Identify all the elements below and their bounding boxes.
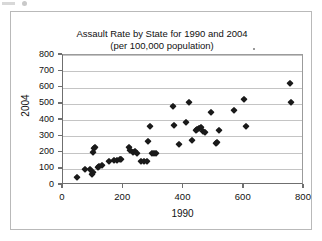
data-point — [176, 141, 182, 147]
data-point — [202, 129, 208, 135]
scan-artifact-dot — [22, 1, 27, 6]
y-axis-tick-mark — [58, 53, 62, 55]
y-axis-tick-label: 500 — [20, 98, 54, 107]
y-axis-tick-label: 0 — [20, 180, 54, 189]
y-axis-tick-mark — [58, 151, 62, 153]
x-axis-tick-mark — [122, 184, 124, 188]
x-axis-tick-label: 600 — [223, 192, 263, 202]
data-point — [216, 127, 222, 133]
gridline — [63, 136, 302, 137]
data-point — [243, 123, 249, 129]
x-axis-tick-mark — [242, 184, 244, 188]
chart-figure: Assault Rate by State for 1990 and 2004 … — [10, 11, 312, 230]
y-axis-tick-label: 100 — [20, 163, 54, 172]
x-axis-tick-mark — [302, 184, 304, 188]
x-axis-tick-label: 0 — [42, 192, 82, 202]
data-point — [208, 109, 214, 115]
chart-title: Assault Rate by State for 1990 and 2004 — [11, 28, 313, 40]
data-point — [147, 123, 153, 129]
gridline — [63, 153, 302, 154]
x-axis-tick-mark — [182, 184, 184, 188]
data-point — [171, 121, 177, 127]
plot-area — [62, 54, 303, 184]
y-axis-tick-mark — [58, 167, 62, 169]
y-axis-tick-label: 200 — [20, 147, 54, 156]
y-axis-tick-mark — [58, 86, 62, 88]
scan-artifact-bar — [2, 2, 15, 5]
x-axis-tick-label: 200 — [102, 192, 142, 202]
data-point — [153, 150, 159, 156]
gridline — [63, 88, 302, 89]
data-point — [231, 107, 237, 113]
gridline — [63, 104, 302, 105]
y-axis-tick-label: 300 — [20, 131, 54, 140]
data-point — [118, 155, 124, 161]
y-axis-tick-label: 400 — [20, 115, 54, 124]
y-axis-tick-label: 800 — [20, 50, 54, 59]
x-axis-tick-label: 400 — [163, 192, 203, 202]
y-axis-tick-label: 700 — [20, 66, 54, 75]
data-point — [145, 138, 151, 144]
x-axis-tick-mark — [61, 184, 63, 188]
y-axis-tick-mark — [58, 118, 62, 120]
x-axis-title: 1990 — [62, 208, 303, 219]
y-axis-tick-mark — [58, 70, 62, 72]
y-axis-tick-label: 600 — [20, 82, 54, 91]
gridline — [63, 71, 302, 72]
data-point — [241, 96, 247, 102]
x-axis-tick-label: 800 — [283, 192, 322, 202]
gridline — [63, 55, 302, 56]
data-point — [134, 150, 140, 156]
y-axis-tick-mark — [58, 135, 62, 137]
scan-speck — [253, 48, 255, 50]
data-point — [286, 80, 292, 86]
y-axis-tick-mark — [58, 102, 62, 104]
data-point — [74, 174, 80, 180]
chart-subtitle: (per 100,000 population) — [11, 40, 313, 52]
